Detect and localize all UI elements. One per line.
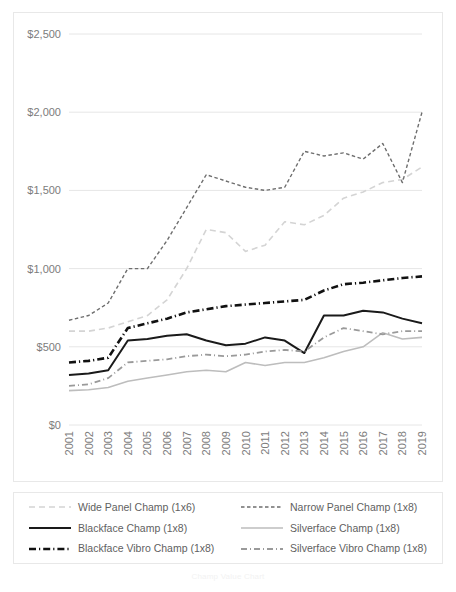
legend-line-swatch (240, 501, 284, 513)
series-line-3: Silverface Champ (1x8) (69, 333, 422, 391)
x-axis-tick-label: 2014 (318, 431, 330, 455)
x-axis-tick-label: 2009 (220, 431, 232, 455)
series-group: Wide Panel Champ (1x6)Narrow Panel Champ… (69, 112, 422, 390)
x-axis-tick-label: 2008 (200, 431, 212, 455)
y-axis-tick-label: $1,000 (27, 263, 61, 275)
series-line-1: Narrow Panel Champ (1x8) (69, 112, 422, 320)
x-axis-tick-label: 2001 (63, 431, 75, 455)
y-axis-tick-label: $1,500 (27, 184, 61, 196)
y-axis-tick-label: $2,000 (27, 106, 61, 118)
legend-item[interactable]: Narrow Panel Champ (1x8) (228, 501, 440, 513)
x-axis-tick-label: 2015 (338, 431, 350, 455)
x-axis-tick-label: 2017 (377, 431, 389, 455)
plot-area-frame: $0$500$1,000$1,500$2,000$2,5002001200220… (13, 12, 443, 482)
x-axis-tick-label: 2006 (161, 431, 173, 455)
x-axis-tick-label: 2011 (259, 431, 271, 455)
legend-item-label: Silverface Vibro Champ (1x8) (290, 543, 427, 554)
legend-item-label: Wide Panel Champ (1x6) (78, 502, 195, 513)
x-axis-tick-label: 2012 (279, 431, 291, 455)
x-axis-tick-label: 2004 (122, 431, 134, 455)
legend-item-label: Blackface Champ (1x8) (78, 523, 187, 534)
legend-item-label: Narrow Panel Champ (1x8) (290, 502, 417, 513)
legend-line-swatch (28, 543, 72, 555)
legend-item-label: Silverface Champ (1x8) (290, 523, 400, 534)
x-axis-tick-label: 2010 (240, 431, 252, 455)
legend-item[interactable]: Blackface Vibro Champ (1x8) (16, 543, 228, 555)
legend-box: Wide Panel Champ (1x6)Narrow Panel Champ… (13, 492, 443, 564)
series-line-5: Silverface Vibro Champ (1x8) (69, 328, 422, 386)
chart-caption: Champ Value Chart (0, 572, 456, 581)
legend-line-swatch (240, 522, 284, 534)
x-axis-tick-label: 2007 (181, 431, 193, 455)
y-gridlines: $0$500$1,000$1,500$2,000$2,500 (27, 28, 422, 431)
x-axis-tick-labels: 2001200220032004200520062007200820092010… (63, 431, 428, 455)
legend-grid: Wide Panel Champ (1x6)Narrow Panel Champ… (14, 493, 442, 563)
legend-item[interactable]: Blackface Champ (1x8) (16, 522, 228, 534)
legend-item-label: Blackface Vibro Champ (1x8) (78, 543, 214, 554)
x-axis-tick-label: 2002 (83, 431, 95, 455)
y-axis-tick-label: $0 (49, 419, 61, 431)
chart-figure: $0$500$1,000$1,500$2,000$2,5002001200220… (0, 0, 456, 592)
y-axis-tick-label: $2,500 (27, 28, 61, 40)
legend-item[interactable]: Silverface Champ (1x8) (228, 522, 440, 534)
x-axis-tick-label: 2019 (416, 431, 428, 455)
y-axis-tick-label: $500 (37, 341, 61, 353)
x-axis-tick-label: 2003 (102, 431, 114, 455)
legend-line-swatch (28, 522, 72, 534)
x-axis-tick-label: 2016 (357, 431, 369, 455)
x-axis-tick-label: 2018 (396, 431, 408, 455)
line-chart-svg: $0$500$1,000$1,500$2,000$2,5002001200220… (14, 13, 442, 481)
legend-item[interactable]: Wide Panel Champ (1x6) (16, 501, 228, 513)
series-line-0: Wide Panel Champ (1x6) (69, 167, 422, 331)
legend-line-swatch (28, 501, 72, 513)
legend-item[interactable]: Silverface Vibro Champ (1x8) (228, 543, 440, 555)
legend-line-swatch (240, 543, 284, 555)
x-axis-tick-label: 2013 (298, 431, 310, 455)
x-axis-tick-label: 2005 (141, 431, 153, 455)
